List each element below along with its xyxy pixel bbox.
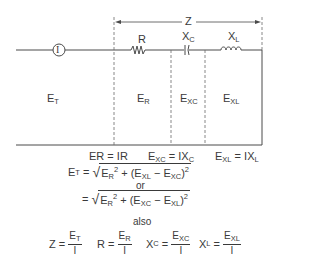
capacitor-voltage-label: EXC	[180, 93, 198, 106]
impedance-span-label: Z	[185, 16, 192, 27]
resistor-voltage-label: ER	[137, 93, 150, 106]
arrow-left-icon	[115, 20, 121, 24]
inductor-voltage-label: EXL	[223, 93, 240, 106]
relation-resistor: ER = IR	[89, 151, 128, 162]
resistor-label: R	[138, 34, 146, 45]
also-text: also	[133, 217, 151, 227]
relation-inductor: EXL = IXL	[215, 151, 259, 164]
arrow-right-icon	[255, 20, 261, 24]
impedance-ratio: Z = ETI	[49, 231, 82, 256]
resistance-ratio: R = ERI	[97, 231, 132, 256]
inductive-reactance-ratio: XL = EXLI	[199, 231, 241, 256]
capacitor-label: XC	[182, 31, 195, 44]
inductor-label: XL	[228, 31, 240, 44]
source-voltage-label: ET	[47, 93, 59, 106]
total-voltage-formula: ET = √ER2 + (EXL − EXC)2	[68, 163, 191, 181]
alternate-voltage-formula: = √ER2 + (EXC − EXL)2	[82, 190, 190, 208]
relation-capacitor: EXC = IXC	[148, 151, 194, 164]
capacitive-reactance-ratio: XC = EXCI	[146, 231, 190, 256]
meter-label: I	[56, 45, 59, 55]
